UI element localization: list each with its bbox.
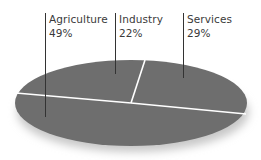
label-agriculture: Agriculture 49% — [49, 12, 108, 40]
label-services-name: Services — [187, 12, 232, 26]
label-industry-name: Industry — [119, 12, 163, 26]
label-services-value: 29% — [187, 26, 232, 40]
label-industry-value: 22% — [119, 26, 163, 40]
label-industry: Industry 22% — [119, 12, 163, 40]
label-services: Services 29% — [187, 12, 232, 40]
label-agriculture-name: Agriculture — [49, 12, 108, 26]
label-agriculture-value: 49% — [49, 26, 108, 40]
